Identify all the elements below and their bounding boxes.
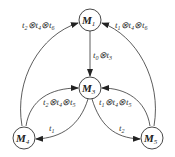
- node-m1: M1: [79, 9, 101, 31]
- label-m5-m1: t1⊗t4⊗t6: [115, 20, 148, 31]
- label-m4-m3: t2⊗t4⊗t5: [43, 97, 76, 108]
- edge-m4-to-m1: [21, 23, 78, 126]
- edge-m5-to-m1: [102, 23, 155, 126]
- label-m5-m3: t1⊗t4⊗t5: [99, 97, 132, 108]
- node-m4: M4: [13, 127, 35, 149]
- edge-m4-to-m3: [26, 88, 78, 126]
- label-m3-m4: t1: [49, 123, 55, 134]
- state-diagram: M1 M3 M4 M5 t2⊗t4⊗t6 t1⊗t4⊗t6 t0⊗t3 t2⊗t…: [0, 0, 175, 157]
- node-m3: M3: [79, 77, 101, 99]
- label-m4-m1: t2⊗t4⊗t6: [22, 20, 55, 31]
- edge-m5-to-m3: [102, 88, 150, 126]
- label-m1-m3: t0⊗t3: [93, 50, 112, 61]
- node-m5: M5: [141, 127, 163, 149]
- label-m3-m5: t2: [119, 123, 125, 134]
